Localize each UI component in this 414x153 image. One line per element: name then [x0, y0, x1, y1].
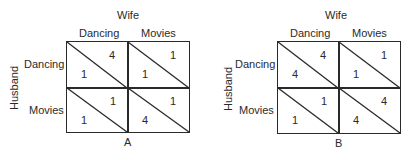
cell-diagonals: [0, 0, 207, 153]
matrix-label: B: [335, 138, 342, 149]
payoff-husband: 4: [353, 115, 359, 126]
payoff-wife: 4: [320, 50, 326, 61]
payoff-husband: 1: [81, 69, 87, 80]
payoff-husband: 1: [81, 115, 87, 126]
payoff-wife: 4: [381, 96, 387, 107]
payoff-wife: 1: [110, 96, 116, 107]
payoff-husband: 1: [353, 69, 359, 80]
payoff-husband: 1: [292, 115, 298, 126]
payoff-husband: 4: [142, 115, 148, 126]
payoff-wife: 4: [109, 50, 115, 61]
payoff-husband: 4: [292, 69, 298, 80]
payoff-wife: 1: [381, 50, 387, 61]
payoff-wife: 1: [321, 96, 327, 107]
payoff-wife: 1: [170, 50, 176, 61]
matrix-label: A: [124, 137, 131, 148]
payoff-matrix-b: Wife Dancing Movies Husband Dancing Movi…: [207, 0, 414, 153]
payoff-wife: 1: [170, 96, 176, 107]
payoff-husband: 1: [142, 69, 148, 80]
payoff-matrix-a: Wife Dancing Movies Husband Dancing Movi…: [0, 0, 207, 153]
cell-diagonals: [207, 0, 414, 153]
